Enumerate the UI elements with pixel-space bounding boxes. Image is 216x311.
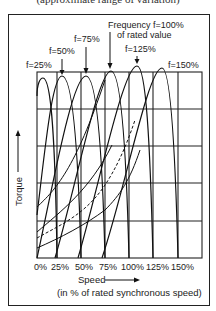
label-f25: f=25% <box>26 60 52 70</box>
tick-50: 50% <box>75 262 93 272</box>
label-f150: f=150% <box>168 60 199 70</box>
curve-f25 <box>37 78 57 258</box>
label-f50: f=50% <box>49 46 75 56</box>
label-f75: f=75% <box>74 34 100 44</box>
y-axis-label: Torque <box>13 177 24 206</box>
tick-125: 125% <box>146 262 169 272</box>
load-curves <box>37 80 140 248</box>
curve-f100 <box>55 71 129 258</box>
arrow-icon <box>135 59 140 64</box>
series-labels: f=25% f=50% f=75% Frequency f=100% of ra… <box>26 20 199 75</box>
tick-25: 25% <box>51 262 69 272</box>
arrow-icon <box>108 63 113 69</box>
tick-75: 75% <box>99 262 117 272</box>
x-axis-note: (in % of rated synchronous speed) <box>57 287 202 298</box>
arrow-right-icon <box>134 278 140 283</box>
tick-100: 100% <box>121 262 144 272</box>
torque-curves <box>37 66 178 258</box>
label-f125: f=125% <box>125 44 156 54</box>
curve-f125 <box>78 66 153 258</box>
tick-0: 0% <box>34 262 47 272</box>
curve-f150 <box>102 68 178 258</box>
annotation-frequency: Frequency f=100% <box>108 20 184 30</box>
annotation-rated: of rated value <box>117 30 172 40</box>
arrow-up-icon <box>16 130 21 136</box>
load-curve-4 <box>37 150 140 248</box>
arrow-icon <box>84 68 89 74</box>
torque-speed-chart: f=25% f=50% f=75% Frequency f=100% of ra… <box>0 0 216 311</box>
x-axis-ticks: 0% 25% 50% 75% 100% 125% 150% <box>34 262 194 272</box>
curve-f50 <box>37 76 81 258</box>
x-axis-label: Speed <box>78 274 105 285</box>
curve-f75 <box>37 76 105 258</box>
tick-150: 150% <box>171 262 194 272</box>
